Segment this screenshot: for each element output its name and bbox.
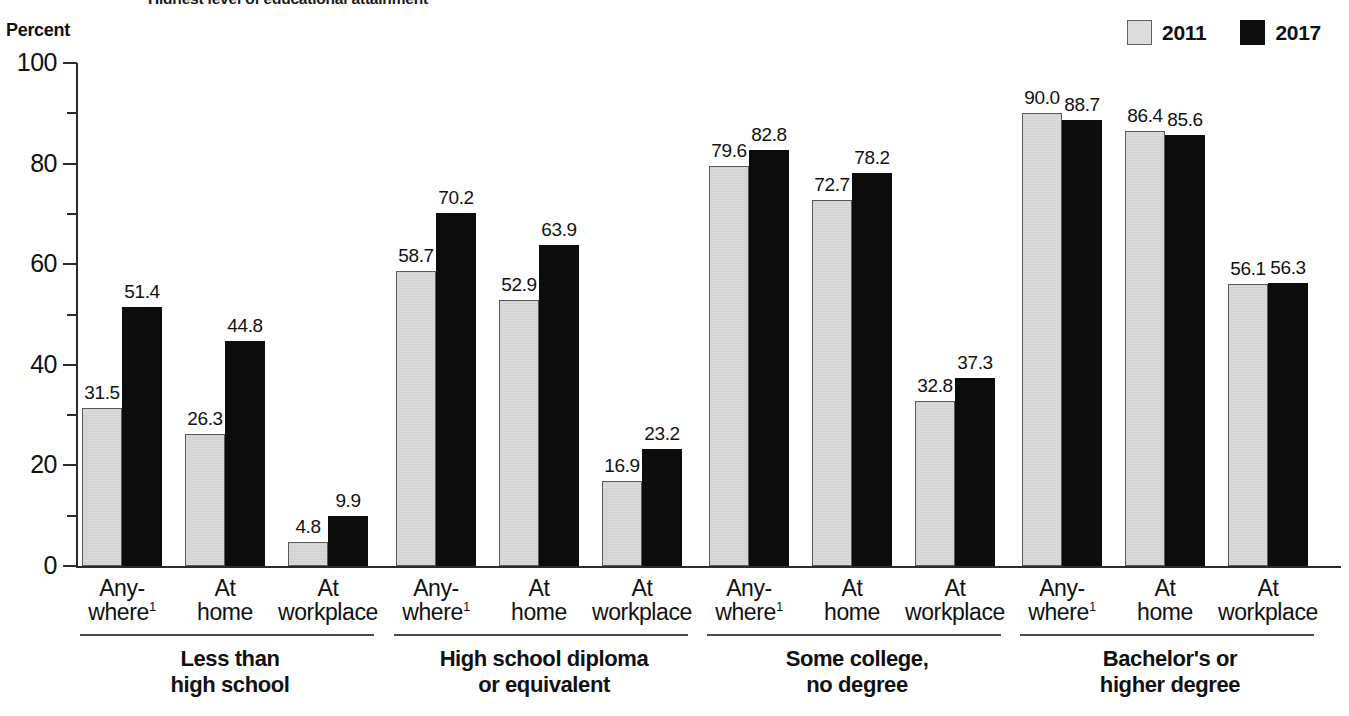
y-tick-label-40: 40 [30,352,57,377]
bar-value-g2-c2-2017: 37.3 [949,353,1001,372]
bar-value-g0-c1-2011: 26.3 [179,409,231,428]
category-label-line2: home [165,600,285,624]
bar-g2-c1-2017[interactable] [852,173,892,566]
category-label-line1: At [582,576,702,600]
bar-g2-c1-2011[interactable] [812,200,852,566]
bar-value-g0-c2-2011: 4.8 [282,517,334,536]
category-label-line1: Any- [689,576,809,600]
y-tick-label-80: 80 [30,151,57,176]
bar-g0-c1-2017[interactable] [225,341,265,566]
bar-g0-c2-2017[interactable] [328,516,368,566]
footnote-marker: 1 [776,600,783,615]
y-tick-70 [67,213,77,215]
category-label-g1-c0: Any-where1 [376,576,496,625]
y-tick-10 [67,515,77,517]
bar-g0-c2-2011[interactable] [288,542,328,566]
y-tick-60 [63,263,77,265]
bar-value-g2-c0-2017: 82.8 [743,125,795,144]
bar-g0-c1-2011[interactable] [185,434,225,566]
y-tick-90 [67,112,77,114]
group-rule-0 [80,634,374,636]
group-rule-3 [1020,634,1314,636]
x-axis-baseline [76,566,1341,568]
bar-g0-c0-2011[interactable] [82,408,122,566]
category-label-g0-c0: Any-where1 [62,576,182,625]
y-tick-label-0: 0 [44,553,57,578]
bar-value-g3-c1-2017: 85.6 [1159,110,1211,129]
category-label-line1: Any- [376,576,496,600]
y-tick-80 [63,163,77,165]
bar-value-g1-c1-2011: 52.9 [493,275,545,294]
category-label-line2: workplace [1208,600,1328,624]
bar-value-g2-c1-2011: 72.7 [806,175,858,194]
category-label-g3-c2: Atworkplace [1208,576,1328,625]
bar-g1-c1-2011[interactable] [499,300,539,566]
bar-g1-c2-2011[interactable] [602,481,642,566]
category-label-line1: At [165,576,285,600]
category-label-g2-c2: Atworkplace [895,576,1015,625]
bar-value-g0-c0-2011: 31.5 [76,383,128,402]
group-rule-2 [707,634,1001,636]
bar-value-g0-c2-2017: 9.9 [322,491,374,510]
bar-g1-c0-2017[interactable] [436,213,476,566]
category-label-g0-c1: Athome [165,576,285,625]
bar-value-g1-c1-2017: 63.9 [533,220,585,239]
y-tick-label-100: 100 [17,50,57,75]
y-tick-20 [63,464,77,466]
bar-value-g2-c1-2017: 78.2 [846,148,898,167]
bar-value-g1-c2-2017: 23.2 [636,424,688,443]
category-label-line1: At [895,576,1015,600]
group-label-line1: Bachelor's or [980,646,1349,672]
bar-g2-c0-2011[interactable] [709,166,749,566]
category-label-g3-c1: Athome [1105,576,1225,625]
bar-g3-c1-2011[interactable] [1125,131,1165,566]
category-label-line1: At [1105,576,1225,600]
group-rule-1 [394,634,688,636]
bar-g0-c0-2017[interactable] [122,307,162,566]
bar-g1-c0-2011[interactable] [396,271,436,566]
category-label-g2-c0: Any-where1 [689,576,809,625]
y-tick-0 [63,565,77,567]
category-label-g3-c0: Any-where1 [1002,576,1122,625]
category-label-line2: where1 [689,600,809,624]
y-tick-label-60: 60 [30,251,57,276]
category-label-g2-c1: Athome [792,576,912,625]
category-label-line2: workplace [268,600,388,624]
category-label-line2: where1 [376,600,496,624]
bar-g3-c0-2017[interactable] [1062,120,1102,566]
footnote-marker: 1 [149,600,156,615]
y-tick-40 [63,364,77,366]
group-label-line2: higher degree [980,672,1349,698]
bar-g3-c1-2017[interactable] [1165,135,1205,566]
category-label-line2: workplace [895,600,1015,624]
category-label-line2: home [479,600,599,624]
y-tick-label-20: 20 [30,452,57,477]
bar-value-g0-c1-2017: 44.8 [219,316,271,335]
category-label-line1: At [479,576,599,600]
bar-g2-c2-2017[interactable] [955,378,995,566]
y-tick-100 [63,62,77,64]
footnote-marker: 1 [463,600,470,615]
footnote-marker: 1 [1089,600,1096,615]
category-label-line1: At [792,576,912,600]
bar-g2-c2-2011[interactable] [915,401,955,566]
bar-chart-plot-area: 100806040200 31.551.426.344.84.89.958.77… [0,0,1349,716]
category-label-line2: where1 [1002,600,1122,624]
category-label-line1: Any- [1002,576,1122,600]
category-label-line2: home [792,600,912,624]
bar-g3-c0-2011[interactable] [1022,113,1062,566]
category-label-line2: home [1105,600,1225,624]
bar-g2-c0-2017[interactable] [749,150,789,566]
y-axis-line [76,63,78,568]
category-label-g1-c2: Atworkplace [582,576,702,625]
category-label-line1: Any- [62,576,182,600]
bar-value-g1-c0-2017: 70.2 [430,188,482,207]
bar-value-g2-c2-2011: 32.8 [909,376,961,395]
bar-value-g3-c0-2017: 88.7 [1056,95,1108,114]
y-tick-30 [67,414,77,416]
bar-g1-c2-2017[interactable] [642,449,682,566]
bar-g1-c1-2017[interactable] [539,245,579,566]
bar-value-g1-c2-2011: 16.9 [596,456,648,475]
bar-g3-c2-2011[interactable] [1228,284,1268,566]
bar-g3-c2-2017[interactable] [1268,283,1308,566]
